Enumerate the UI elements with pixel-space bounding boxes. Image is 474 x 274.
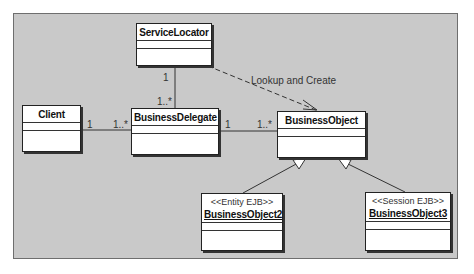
stereotype-label: <<Session EJB>>	[368, 195, 448, 207]
class-business-object2[interactable]: <<Entity EJB>> BusinessObject2	[201, 193, 283, 251]
operations-compartment	[23, 131, 80, 151]
multiplicity-object-end: 1..*	[257, 119, 272, 130]
attributes-compartment	[278, 129, 365, 137]
generalization-arrowhead-icon	[293, 158, 306, 169]
multiplicity-delegate-end-left: 1..*	[113, 119, 128, 130]
operations-compartment	[366, 230, 450, 250]
class-business-object3[interactable]: <<Session EJB>> BusinessObject3	[365, 192, 451, 251]
dependency-arrowhead-icon	[303, 100, 317, 110]
generalization-bo2	[243, 163, 298, 193]
class-business-object[interactable]: BusinessObject	[277, 111, 366, 158]
class-business-delegate[interactable]: BusinessDelegate	[131, 108, 219, 155]
stereotype-label: <<Entity EJB>>	[204, 196, 280, 208]
class-name: BusinessDelegate	[134, 111, 216, 124]
class-service-locator[interactable]: ServiceLocator	[136, 23, 212, 66]
multiplicity-delegate-end-top: 1..*	[157, 96, 172, 107]
generalization-bo3	[346, 163, 405, 192]
operations-compartment	[278, 137, 365, 157]
operations-compartment	[137, 49, 211, 65]
attributes-compartment	[132, 126, 218, 134]
dependency-label: Lookup and Create	[251, 75, 336, 86]
attributes-compartment	[202, 223, 282, 231]
class-name: BusinessObject	[280, 114, 363, 127]
generalization-arrowhead-icon	[338, 158, 351, 169]
attributes-compartment	[137, 41, 211, 49]
operations-compartment	[132, 134, 218, 154]
dependency-line	[208, 66, 316, 110]
class-name: Client	[25, 108, 78, 121]
class-name: BusinessObject2	[204, 208, 280, 221]
attributes-compartment	[366, 222, 450, 230]
multiplicity-delegate-end-right: 1	[225, 119, 231, 130]
attributes-compartment	[23, 123, 80, 131]
multiplicity-locator-end: 1	[163, 72, 169, 83]
class-name: ServiceLocator	[139, 26, 209, 39]
multiplicity-client-end: 1	[87, 119, 93, 130]
class-name: BusinessObject3	[368, 207, 448, 220]
operations-compartment	[202, 231, 282, 250]
class-client[interactable]: Client	[22, 105, 81, 152]
